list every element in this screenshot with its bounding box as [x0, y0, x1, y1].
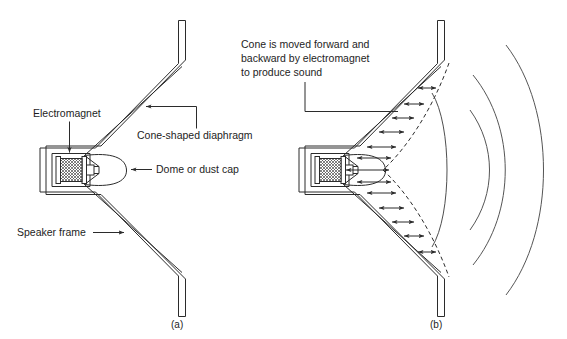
frame-label-text: Speaker frame: [17, 226, 86, 238]
panel-a: Electromagnet Cone-shaped diaphragm Dome…: [17, 21, 253, 331]
note-line-1: Cone is moved forward and: [241, 38, 370, 50]
electromagnet-label-text: Electromagnet: [33, 107, 101, 119]
note-line-2: backward by electromagnet: [241, 52, 369, 64]
label-cone-a: Cone-shaped diaphragm: [137, 107, 253, 142]
cone-leader: [146, 107, 197, 129]
cone-displaced-outline-b: [383, 63, 449, 277]
cone-lower-b: [344, 185, 445, 317]
dome-label-text: Dome or dust cap: [156, 163, 239, 175]
cone-displacement-arc-b: [432, 93, 447, 247]
panel-b: Cone is moved forward and backward by el…: [241, 21, 544, 331]
label-frame-a: Speaker frame: [17, 226, 124, 238]
figure-root: Electromagnet Cone-shaped diaphragm Dome…: [0, 0, 567, 339]
note-b: Cone is moved forward and backward by el…: [241, 38, 398, 112]
caption-a: (a): [171, 319, 183, 330]
electromagnet-a: [56, 157, 99, 184]
sound-wave-1: [470, 110, 490, 230]
cone-label-text: Cone-shaped diaphragm: [137, 129, 253, 141]
note-line-3: to produce sound: [241, 66, 322, 78]
label-dome-a: Dome or dust cap: [131, 163, 239, 175]
cone-lower-a: [85, 185, 186, 317]
sound-waves-b: [470, 45, 544, 295]
speaker-diagram: Electromagnet Cone-shaped diaphragm Dome…: [0, 0, 567, 339]
caption-b: (b): [430, 319, 442, 330]
sound-wave-3: [506, 45, 544, 295]
note-leader: [305, 82, 398, 112]
